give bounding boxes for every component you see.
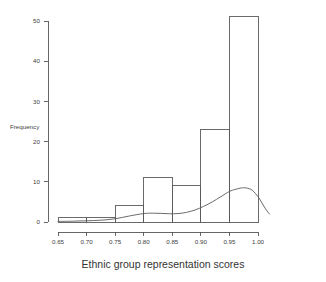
- y-axis-tick-labels: 01020304050: [33, 17, 40, 225]
- x-tick-label-1.00: 1.00: [252, 238, 265, 245]
- histogram-bar-0.90-0.95: [201, 130, 230, 222]
- y-tick-label-40: 40: [33, 57, 40, 64]
- x-axis-title: Ethnic group representation scores: [82, 258, 245, 270]
- histogram-svg: 01020304050 Frequency 0.650.700.750.800.…: [0, 0, 326, 282]
- histogram-bar-0.85-0.90: [172, 186, 201, 222]
- y-tick-label-50: 50: [33, 17, 40, 24]
- y-tick-label-0: 0: [37, 218, 41, 225]
- y-tick-label-30: 30: [33, 98, 40, 105]
- y-axis-ticks: [44, 21, 48, 222]
- y-tick-label-10: 10: [33, 178, 40, 185]
- x-axis-ticks: [58, 232, 258, 236]
- y-axis: 01020304050: [33, 17, 48, 225]
- x-axis-tick-labels: 0.650.700.750.800.850.900.951.00: [52, 238, 265, 245]
- x-axis: 0.650.700.750.800.850.900.951.00: [52, 232, 265, 245]
- histogram-bar-0.80-0.85: [144, 178, 173, 222]
- x-tick-label-0.70: 0.70: [81, 238, 94, 245]
- x-tick-label-0.85: 0.85: [166, 238, 179, 245]
- x-tick-label-0.95: 0.95: [223, 238, 236, 245]
- x-tick-label-0.65: 0.65: [52, 238, 65, 245]
- density-curve: [58, 188, 269, 222]
- x-tick-label-0.80: 0.80: [138, 238, 151, 245]
- x-tick-label-0.75: 0.75: [109, 238, 122, 245]
- histogram-plot-container: 01020304050 Frequency 0.650.700.750.800.…: [0, 0, 326, 282]
- histogram-bars: [58, 17, 258, 222]
- y-axis-label: Frequency: [10, 123, 40, 130]
- x-tick-label-0.90: 0.90: [195, 238, 208, 245]
- y-tick-label-20: 20: [33, 138, 40, 145]
